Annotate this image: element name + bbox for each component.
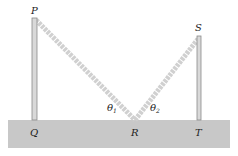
- label-S: S: [195, 22, 202, 33]
- ray-RS: [135, 39, 198, 120]
- label-Q: Q: [30, 127, 38, 138]
- pole-PQ: [32, 18, 37, 120]
- label-theta1: θ1: [107, 102, 117, 114]
- ray-PR: [36, 20, 135, 120]
- label-theta2: θ2: [150, 102, 160, 114]
- label-P: P: [30, 5, 38, 16]
- pole-ST: [197, 36, 201, 120]
- reflection-diagram: P S Q R T θ1 θ2: [0, 0, 238, 156]
- label-R: R: [130, 127, 139, 138]
